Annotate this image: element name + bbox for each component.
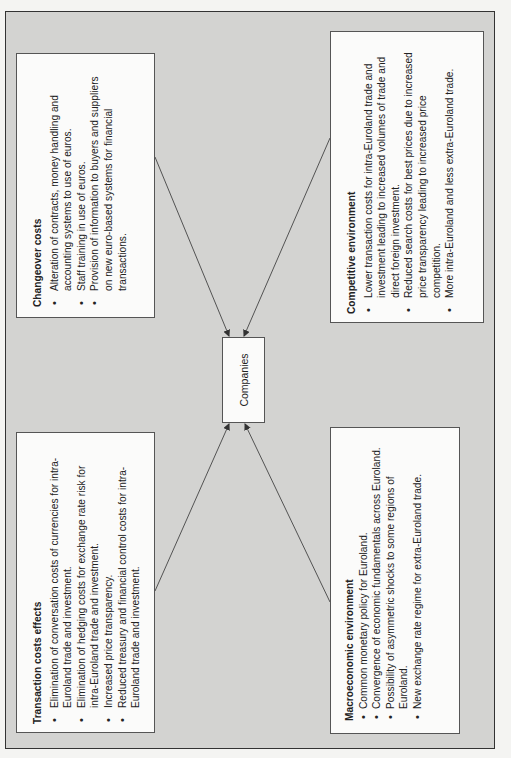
macroeconomic-environment-list: Common monetary policy for Euroland. Con… xyxy=(357,436,425,721)
list-item: Elimination of hedging costs for exchang… xyxy=(75,441,102,724)
arrow-competitive-to-companies xyxy=(244,138,330,336)
competitive-environment-list: Lower transaction costs for intra-Eurola… xyxy=(362,40,457,314)
transaction-costs-box: Transaction costs effects Elimination of… xyxy=(16,432,155,733)
macroeconomic-environment-box: Macroeconomic environment Common monetar… xyxy=(330,427,460,734)
changeover-costs-box: Changeover costs Alteration of contracts… xyxy=(16,53,155,318)
list-item: Staff training in use of euros. xyxy=(75,64,89,307)
list-item: Possibility of asymmetric shocks to some… xyxy=(384,436,411,721)
changeover-costs-title: Changeover costs xyxy=(31,64,45,307)
arrow-transaction-to-companies xyxy=(155,424,229,591)
list-item: More intra-Euroland and less extra-Eurol… xyxy=(443,40,457,314)
competitive-environment-box: Competitive environment Lower transactio… xyxy=(330,31,484,323)
competitive-environment-title: Competitive environment xyxy=(345,40,359,314)
list-item: Common monetary policy for Euroland. xyxy=(357,436,371,721)
list-item: Increased price transparency. xyxy=(102,441,116,724)
list-item: Alteration of contracts, money handling … xyxy=(48,64,75,307)
list-item: Provision of information to buyers and s… xyxy=(88,64,129,307)
companies-label: Companies xyxy=(238,353,250,406)
arrow-changeover-to-companies xyxy=(155,157,229,336)
arrow-macro-to-companies xyxy=(245,424,330,602)
list-item: New exchange rate regime for extra-Eurol… xyxy=(411,436,425,721)
list-item: Reduced treasury and financial control c… xyxy=(116,441,143,724)
list-item: Convergence of economic fundamentals acr… xyxy=(370,436,384,721)
transaction-costs-title: Transaction costs effects xyxy=(31,441,45,724)
list-item: Reduced search costs for best prices due… xyxy=(402,40,443,314)
macroeconomic-environment-title: Macroeconomic environment xyxy=(343,436,357,721)
changeover-costs-list: Alteration of contracts, money handling … xyxy=(48,64,130,307)
transaction-costs-list: Elimination of conversation costs of cur… xyxy=(48,441,143,724)
list-item: Elimination of conversation costs of cur… xyxy=(48,441,75,724)
companies-box: Companies xyxy=(222,337,265,423)
list-item: Lower transaction costs for intra-Eurola… xyxy=(362,40,403,314)
